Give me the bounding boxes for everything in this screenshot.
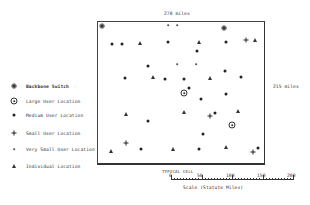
- very-small-user-icon: [13, 148, 15, 150]
- medium-user-icon: [183, 78, 186, 81]
- individual-icon: [182, 110, 186, 114]
- scale-tick: [275, 178, 276, 180]
- medium-user-icon: [225, 93, 228, 96]
- medium-user-icon: [257, 147, 260, 150]
- medium-user-icon: [198, 148, 201, 151]
- individual-icon: [171, 147, 175, 151]
- scale-tick: [177, 178, 178, 180]
- scale-tick: [256, 178, 257, 180]
- scale-tick: [202, 175, 203, 180]
- individual-icon: [208, 76, 212, 80]
- large-user-icon: [229, 122, 236, 129]
- scale-tick: [293, 175, 294, 180]
- very-small-user-icon: [176, 63, 178, 65]
- medium-user-icon: [121, 43, 124, 46]
- width-label: 270 miles: [164, 11, 190, 16]
- small-user-icon: [12, 131, 17, 136]
- medium-user-icon: [202, 133, 205, 136]
- cell-caption: TYPICAL CELL: [162, 169, 193, 174]
- medium-user-icon: [167, 41, 170, 44]
- backbone-switch-icon: [222, 26, 227, 31]
- legend-item-small-user: Small User Location: [10, 129, 80, 137]
- legend-item-very-small-user: Very Small User Location: [10, 145, 95, 153]
- individual-icon: [236, 109, 240, 113]
- individual-icon: [253, 38, 257, 42]
- small-user-icon: [251, 150, 256, 155]
- scale-tick: [232, 175, 233, 180]
- scale-tick-label: 100: [226, 173, 235, 178]
- scale-tick: [284, 178, 285, 180]
- medium-user-icon: [13, 114, 16, 117]
- scale-tick: [241, 178, 242, 180]
- scale-tick: [171, 175, 172, 180]
- scale-tick-label: 200: [287, 173, 296, 178]
- medium-user-icon: [164, 78, 167, 81]
- scale-tick: [253, 178, 254, 180]
- legend-item-large-user: Large User Location: [10, 97, 80, 105]
- scale-tick: [223, 178, 224, 180]
- legend-item-medium-user: Medium User Location: [10, 111, 83, 119]
- small-user-icon: [208, 114, 213, 119]
- medium-user-icon: [240, 76, 243, 79]
- scale-tick: [244, 178, 245, 180]
- scale-tick: [287, 178, 288, 180]
- scale-tick-label: 150: [257, 173, 266, 178]
- scale-tick: [229, 178, 230, 180]
- scale-label: Scale (Statute Miles): [183, 185, 243, 190]
- individual-icon: [138, 41, 142, 45]
- scale-tick: [263, 175, 264, 180]
- medium-user-icon: [196, 50, 199, 53]
- individual-location-icon: [12, 164, 16, 168]
- scale-tick: [235, 178, 236, 180]
- scale-tick: [192, 178, 193, 180]
- scale-tick: [198, 178, 199, 180]
- scale-tick: [217, 178, 218, 180]
- medium-user-icon: [147, 65, 150, 68]
- scale-tick: [272, 178, 273, 180]
- legend-item-individual: Individual Location: [10, 162, 80, 170]
- scale-tick: [226, 178, 227, 180]
- height-label: 215 miles: [273, 84, 299, 89]
- scale-tick: [180, 178, 181, 180]
- scale-tick: [205, 178, 206, 180]
- scale-tick: [290, 178, 291, 180]
- very-small-user-icon: [195, 63, 197, 65]
- scale-tick: [259, 178, 260, 180]
- scale-tick: [269, 178, 270, 180]
- medium-user-icon: [225, 41, 228, 44]
- scale-tick: [211, 178, 212, 180]
- individual-icon: [151, 75, 155, 79]
- individual-icon: [124, 112, 128, 116]
- medium-user-icon: [147, 120, 150, 123]
- scale-tick: [195, 178, 196, 180]
- scale-tick: [247, 178, 248, 180]
- large-user-icon: [11, 98, 18, 105]
- scale-tick: [214, 178, 215, 180]
- backbone-switch-icon: [12, 84, 17, 89]
- medium-user-icon: [200, 98, 203, 101]
- scale-tick: [174, 178, 175, 180]
- scale-tick: [183, 178, 184, 180]
- large-user-icon: [181, 90, 188, 97]
- medium-user-icon: [124, 77, 127, 80]
- very-small-user-icon: [167, 24, 169, 26]
- scale-tick: [189, 178, 190, 180]
- medium-user-icon: [111, 43, 114, 46]
- individual-icon: [109, 149, 113, 153]
- medium-user-icon: [224, 70, 227, 73]
- scale-tick: [281, 178, 282, 180]
- individual-icon: [224, 145, 228, 149]
- medium-user-icon: [188, 87, 191, 90]
- scale-tick: [208, 178, 209, 180]
- scale-tick: [238, 178, 239, 180]
- scale-tick: [278, 178, 279, 180]
- very-small-user-icon: [176, 24, 178, 26]
- small-user-icon: [124, 141, 129, 146]
- medium-user-icon: [140, 148, 143, 151]
- scale-tick: [250, 178, 251, 180]
- small-user-icon: [244, 38, 249, 43]
- medium-user-icon: [214, 112, 217, 115]
- scale-tick: [186, 178, 187, 180]
- scale-tick: [220, 178, 221, 180]
- individual-icon: [197, 40, 201, 44]
